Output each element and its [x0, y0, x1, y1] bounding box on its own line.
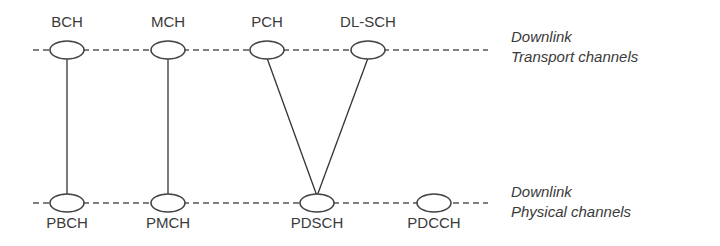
node-dlsch — [351, 41, 385, 59]
mapping-pch-pdsch — [267, 58, 317, 196]
physical-layer-title-line2: Physical channels — [511, 203, 632, 220]
node-pmch — [151, 194, 185, 212]
node-pdsch — [300, 194, 334, 212]
label-mch: MCH — [151, 13, 185, 30]
transport-layer-title-line2: Transport channels — [511, 48, 639, 65]
label-pdsch: PDSCH — [291, 214, 344, 231]
label-pch: PCH — [251, 13, 283, 30]
label-bch: BCH — [51, 13, 83, 30]
node-pch — [250, 41, 284, 59]
channel-mapping-diagram: BCH MCH PCH DL-SCH PBCH PMCH PDSCH PDCCH… — [0, 0, 720, 246]
label-pdcch: PDCCH — [407, 214, 460, 231]
mapping-dlsch-pdsch — [317, 58, 368, 196]
node-pbch — [50, 194, 84, 212]
node-bch — [50, 41, 84, 59]
transport-layer-title-line1: Downlink — [511, 28, 573, 45]
label-dlsch: DL-SCH — [340, 13, 396, 30]
node-mch — [151, 41, 185, 59]
label-pbch: PBCH — [46, 214, 88, 231]
physical-layer-title-line1: Downlink — [511, 183, 573, 200]
label-pmch: PMCH — [146, 214, 190, 231]
node-pdcch — [417, 194, 451, 212]
